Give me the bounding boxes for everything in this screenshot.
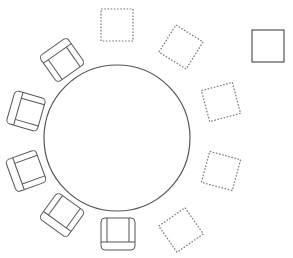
seating-diagram xyxy=(0,0,293,258)
round-table[interactable] xyxy=(44,65,190,211)
empty-seat-slot[interactable] xyxy=(201,82,240,121)
empty-seat-slot[interactable] xyxy=(159,208,204,253)
chair[interactable] xyxy=(6,90,46,132)
empty-seat-slot[interactable] xyxy=(101,9,133,41)
chair[interactable] xyxy=(5,150,47,193)
chair[interactable] xyxy=(101,218,135,250)
empty-seat-slot[interactable] xyxy=(159,25,203,69)
diagram-svg xyxy=(0,0,293,258)
empty-seat-slot[interactable] xyxy=(201,151,240,190)
standalone-square[interactable] xyxy=(252,30,284,62)
